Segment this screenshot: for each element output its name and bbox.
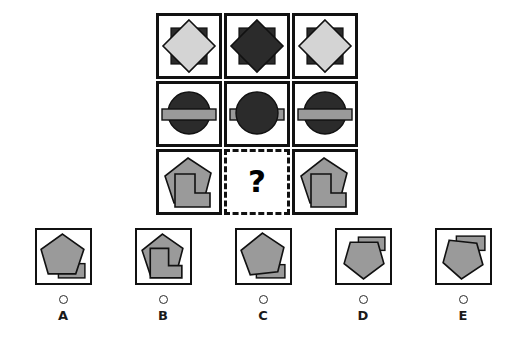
matrix-cell-r2c1: [156, 81, 222, 147]
option-d[interactable]: D: [313, 228, 413, 322]
shape-group-pentagon-lshape: [159, 152, 219, 212]
matrix-grid: ?: [156, 13, 358, 215]
option-a-radio[interactable]: [59, 295, 68, 304]
shape-group-pentagon-lshape: [295, 152, 355, 212]
option-c-box[interactable]: [235, 228, 292, 285]
shape-group-circle-bar-front: [295, 84, 355, 144]
shape-group-pentagon-lshape-b: [137, 230, 190, 283]
shape-group-circle-bar-behind: [227, 84, 287, 144]
matrix-cell-r2c3: [292, 81, 358, 147]
option-b-box[interactable]: [135, 228, 192, 285]
option-d-box[interactable]: [335, 228, 392, 285]
option-b-label: B: [113, 309, 213, 322]
matrix-cell-r1c3: [292, 13, 358, 79]
option-b[interactable]: B: [113, 228, 213, 322]
option-d-label: D: [313, 309, 413, 322]
bar-shape: [298, 109, 352, 120]
option-e-radio[interactable]: [459, 295, 468, 304]
shape-group-square-diamond-dark: [227, 16, 287, 76]
matrix-cell-missing[interactable]: ?: [224, 149, 290, 215]
option-e[interactable]: E: [413, 228, 505, 322]
question-mark: ?: [248, 166, 266, 197]
matrix-cell-r2c2: [224, 81, 290, 147]
matrix-cell-r1c1: [156, 13, 222, 79]
shape-group-circle-bar-front: [159, 84, 219, 144]
puzzle-root: ? A: [0, 0, 505, 360]
bar-shape: [162, 109, 216, 120]
shape-group-square-diamond-light: [295, 16, 355, 76]
option-a-label: A: [13, 309, 113, 322]
pentagon-shape: [241, 233, 284, 275]
option-e-label: E: [413, 309, 505, 322]
matrix-cell-r3c1: [156, 149, 222, 215]
shape-group-pentagon-bar-a: [37, 230, 90, 283]
answer-options: A B: [0, 228, 505, 348]
option-c-radio[interactable]: [259, 295, 268, 304]
option-a-box[interactable]: [35, 228, 92, 285]
pentagon-shape: [41, 234, 84, 274]
option-b-radio[interactable]: [159, 295, 168, 304]
matrix-cell-r1c2: [224, 13, 290, 79]
option-d-radio[interactable]: [359, 295, 368, 304]
shape-group-pentagon-bar-e: [437, 230, 490, 283]
option-a[interactable]: A: [13, 228, 113, 322]
option-c[interactable]: C: [213, 228, 313, 322]
pentagon-shape: [344, 242, 384, 279]
shape-group-pentagon-bar-c: [237, 230, 290, 283]
pentagon-shape: [443, 240, 483, 279]
matrix-cell-r3c3: [292, 149, 358, 215]
shape-group-square-diamond-light: [159, 16, 219, 76]
option-e-box[interactable]: [435, 228, 492, 285]
circle-shape: [236, 92, 278, 134]
shape-group-pentagon-bar-d: [337, 230, 390, 283]
option-c-label: C: [213, 309, 313, 322]
